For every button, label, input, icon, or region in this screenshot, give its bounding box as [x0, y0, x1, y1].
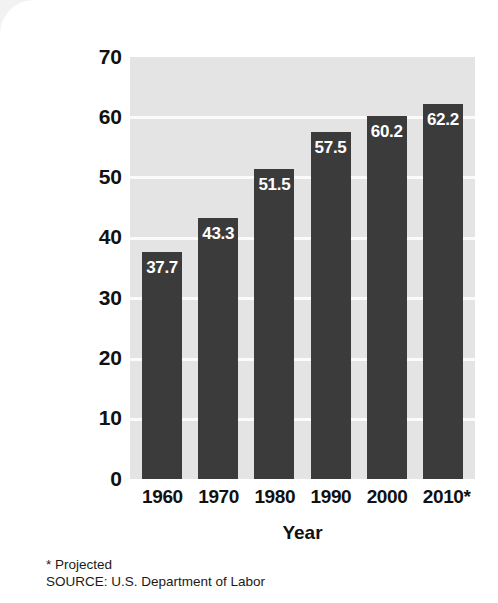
y-tick-label: 40	[64, 227, 122, 247]
y-tick-label: 20	[64, 348, 122, 368]
x-tick-label: 2010*	[423, 486, 463, 514]
bar-value-label: 57.5	[315, 132, 347, 156]
bar-value-label: 43.3	[202, 218, 234, 242]
chart-card: Percentage of all women 70 60 50 40 30 2…	[0, 0, 498, 603]
bar-value-label: 51.5	[258, 169, 290, 193]
bar-group: 60.2	[367, 116, 407, 479]
footnote-projected: * Projected	[46, 556, 486, 573]
y-axis-title: Percentage of all women	[16, 0, 52, 93]
bar[interactable]: 37.7	[142, 252, 182, 479]
bar-group: 37.7	[142, 252, 182, 479]
y-tick-label: 10	[64, 408, 122, 428]
bar-value-label: 62.2	[427, 104, 459, 128]
x-tick-label: 1960	[142, 486, 182, 514]
bar[interactable]: 51.5	[254, 169, 294, 479]
chart-footnotes: * Projected SOURCE: U.S. Department of L…	[46, 556, 486, 590]
x-axis-tick-labels: 1960 1970 1980 1990 2000 2010*	[130, 486, 475, 514]
bar[interactable]: 60.2	[367, 116, 407, 479]
bar-value-label: 60.2	[371, 116, 403, 140]
x-tick-label: 1990	[311, 486, 351, 514]
bar-group: 57.5	[311, 132, 351, 479]
bar-value-label: 37.7	[146, 252, 178, 276]
bar-group: 43.3	[198, 218, 238, 479]
footnote-source: SOURCE: U.S. Department of Labor	[46, 573, 486, 590]
y-tick-label: 50	[64, 167, 122, 187]
y-tick-label: 60	[64, 107, 122, 127]
x-tick-label: 2000	[367, 486, 407, 514]
x-tick-label: 1980	[254, 486, 294, 514]
x-axis-title: Year	[130, 522, 475, 544]
y-axis-tick-labels: 70 60 50 40 30 20 10 0	[64, 47, 122, 479]
x-tick-label: 1970	[198, 486, 238, 514]
y-tick-label: 0	[64, 469, 122, 489]
plot-area: 37.7 43.3 51.5 57.5 60.2	[130, 57, 475, 479]
y-tick-label: 30	[64, 288, 122, 308]
y-tick-label: 70	[64, 47, 122, 67]
bar[interactable]: 62.2	[423, 104, 463, 479]
bar[interactable]: 57.5	[311, 132, 351, 479]
bar-group: 62.2	[423, 104, 463, 479]
bar-group: 51.5	[254, 169, 294, 479]
bar-series: 37.7 43.3 51.5 57.5 60.2	[130, 57, 475, 479]
bar[interactable]: 43.3	[198, 218, 238, 479]
